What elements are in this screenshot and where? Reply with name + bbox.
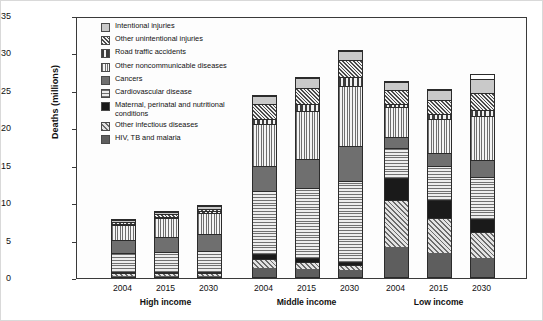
bar-segment [155,276,178,277]
bar-segment [296,269,319,277]
legend-item: Road traffic accidents [101,48,251,58]
legend-swatch-icon [101,122,110,131]
bar-segment [339,51,362,60]
bar-segment [385,107,408,137]
y-tick-label: 10 [0,198,11,208]
bar-segment [385,178,408,200]
bar-segment [253,96,276,105]
stacked-bar[interactable] [427,89,452,278]
stacked-bar[interactable] [384,81,409,278]
bar-segment [198,276,221,277]
bar-segment [339,77,362,86]
bar-segment [428,100,451,114]
y-tick-label: 35 [0,11,11,21]
bar-segment [112,225,135,239]
bar-segment [428,153,451,166]
stacked-bar[interactable] [197,205,222,278]
bar-segment [471,232,494,257]
x-tick-label: 2004 [103,283,143,293]
x-group-label: Middle income [247,297,367,307]
x-tick-label: 2015 [287,283,327,293]
legend-label: Cardiovascular disease [115,88,192,96]
legend-swatch-icon [101,23,110,32]
bar-segment [296,111,319,159]
plot-area: Intentional injuriesOther unintentional … [76,17,527,279]
bar-segment [339,181,362,262]
bar-segment [198,251,221,273]
legend-label: Other noncommunicable diseases [115,62,227,70]
bar-segment [253,268,276,277]
y-axis-label: Deaths (millions) [50,32,60,172]
bar-segment [112,276,135,277]
bar-segment [428,253,451,277]
legend-swatch-icon [101,76,110,85]
bar-segment [428,166,451,200]
bar-segment [198,234,221,251]
legend-swatch-icon [101,49,110,58]
legend-label: Maternal, perinatal and nutritional cond… [115,101,251,118]
bar-segment [155,218,178,237]
bar-segment [471,116,494,160]
stacked-bar[interactable] [154,211,179,278]
bar-segment [253,191,276,254]
stacked-bar[interactable] [470,74,495,278]
bar-segment [471,160,494,177]
y-tick-label: 5 [0,236,11,246]
x-tick-label: 2004 [376,283,416,293]
legend-item: Other unintentional injuries [101,35,251,45]
y-tick-label: 30 [0,48,11,58]
x-tick-label: 2015 [146,283,186,293]
bar-segment [428,90,451,100]
legend-swatch-icon [101,102,110,111]
bar-segment [428,119,451,153]
stacked-bar[interactable] [111,219,136,278]
bar-segment [385,137,408,148]
legend-item: Maternal, perinatal and nutritional cond… [101,101,251,118]
legend-item: HIV, TB and malaria [101,134,251,144]
legend-label: HIV, TB and malaria [115,134,181,142]
bar-segment [339,60,362,77]
legend-swatch-icon [101,63,110,72]
x-tick-label: 2030 [330,283,370,293]
chart-legend: Intentional injuriesOther unintentional … [101,22,251,148]
bar-segment [385,247,408,277]
bar-segment [198,213,221,235]
y-tick-label: 0 [0,273,11,283]
y-tick-mark [72,279,76,280]
x-tick-label: 2030 [189,283,229,293]
stacked-bar[interactable] [252,95,277,278]
bar-segment [471,93,494,110]
legend-label: Other unintentional injuries [115,35,203,43]
bar-segment [296,78,319,88]
bar-segment [296,104,319,111]
bar-segment [155,237,178,252]
chart-figure: Deaths (millions) 05101520253035 Intenti… [0,0,543,321]
bar-segment [339,270,362,277]
bar-segment [428,200,451,218]
bar-segment [471,258,494,277]
legend-item: Other infectious diseases [101,121,251,131]
legend-item: Other noncommunicable diseases [101,62,251,72]
y-tick-label: 25 [0,86,11,96]
bar-segment [385,90,408,103]
x-tick-label: 2030 [462,283,502,293]
bar-segment [253,104,276,118]
bar-segment [253,124,276,165]
bar-segment [471,219,494,232]
y-tick-label: 20 [0,123,11,133]
stacked-bar[interactable] [338,50,363,278]
legend-label: Road traffic accidents [115,48,186,56]
bar-segment [296,188,319,258]
bar-segment [385,200,408,247]
legend-item: Cancers [101,75,251,85]
legend-swatch-icon [101,135,110,144]
bar-segment [296,262,319,269]
stacked-bar[interactable] [295,77,320,278]
legend-label: Intentional injuries [115,22,175,30]
bar-segment [428,218,451,253]
bar-segment [385,82,408,90]
bar-segment [296,159,319,188]
legend-swatch-icon [101,89,110,98]
x-group-label: Low income [379,297,499,307]
legend-item: Intentional injuries [101,22,251,32]
